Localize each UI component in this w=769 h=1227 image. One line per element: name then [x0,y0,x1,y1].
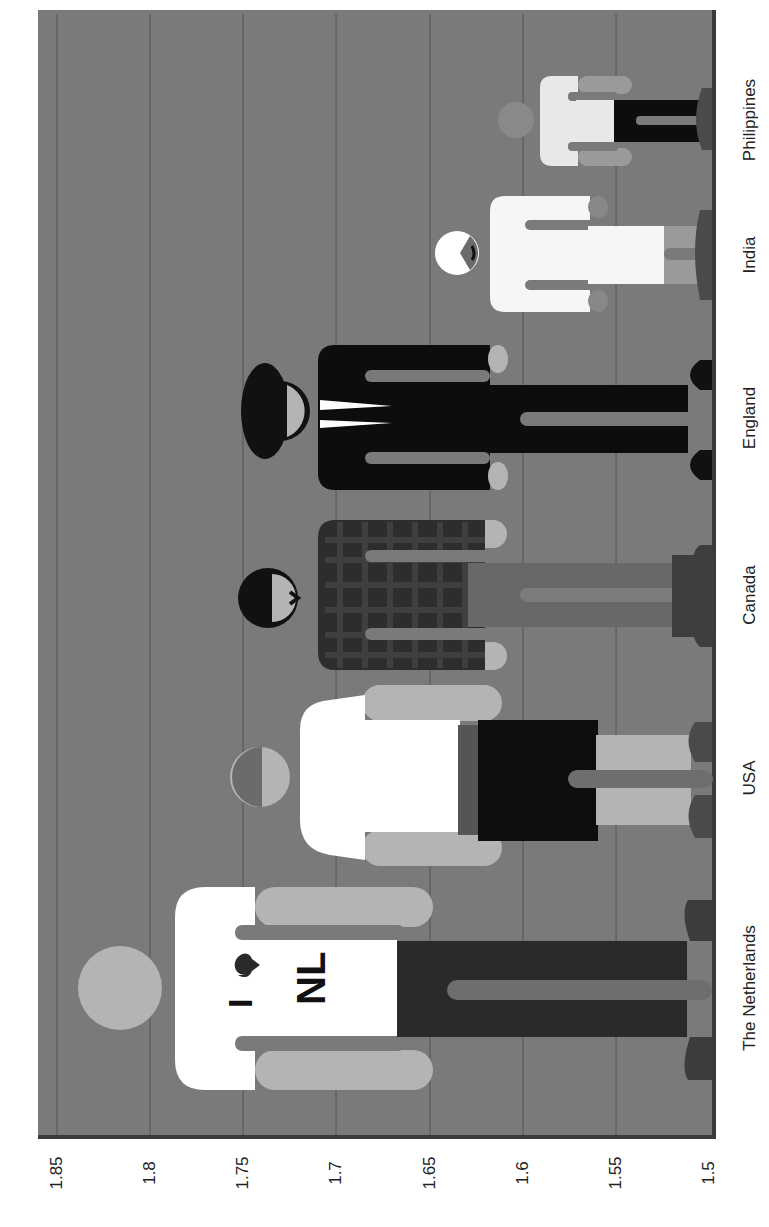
shoe-lower [689,795,713,838]
category-label-philippines: Philippines [740,40,760,200]
svg-text:NL: NL [289,952,333,1005]
tick-label-1-65: 1.65 [420,1143,440,1203]
head [498,102,534,138]
kurta [490,196,590,312]
category-label-the-netherlands: The Netherlands [740,908,760,1068]
category-label-canada: Canada [740,515,760,675]
shirt [540,76,578,166]
tick-label-1-85: 1.85 [47,1143,67,1203]
arm-upper [255,887,433,927]
shoe-upper [689,722,713,762]
arm-upper [362,685,502,721]
height-pictogram-chart: I NL [0,0,769,1227]
arm-lower [255,1050,433,1090]
boots [672,555,714,637]
tick-label-1-7: 1.7 [326,1143,346,1203]
shirt [300,695,365,860]
tick-label-1-8: 1.8 [140,1143,160,1203]
svg-text:I: I [221,999,259,1008]
belt [458,725,480,835]
shoe-upper [684,900,712,941]
shoe-lower [684,1037,712,1080]
category-label-england: England [740,338,760,498]
suit [318,345,490,490]
tick-label-1-6: 1.6 [513,1143,533,1203]
x-axis-line [38,1135,715,1139]
category-label-usa: USA [740,698,760,858]
tick-label-1-5: 1.5 [699,1143,719,1203]
tick-label-1-55: 1.55 [606,1143,626,1203]
tick-label-1-75: 1.75 [233,1143,253,1203]
shirt-body [360,720,460,832]
head [78,946,162,1030]
